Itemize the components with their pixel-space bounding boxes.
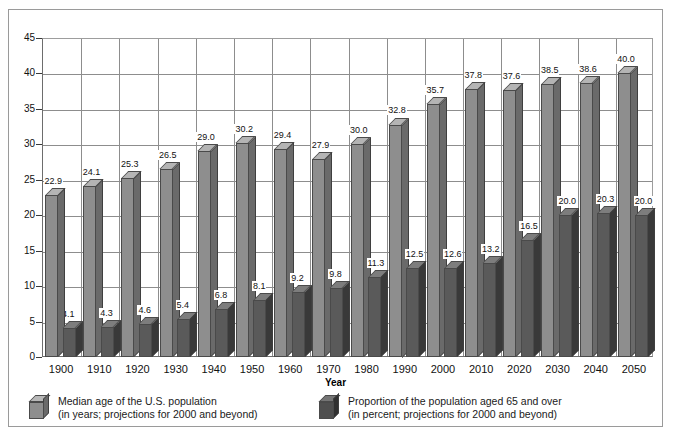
bar-front: [139, 324, 152, 357]
y-tick-mark: [36, 251, 42, 252]
data-label-1900-series1: 22.9: [44, 176, 64, 186]
data-label-1920-series1: 25.3: [120, 159, 140, 169]
legend-swatch-cube-icon: [319, 395, 339, 419]
y-tick-label: 5: [9, 317, 35, 327]
x-gridline: [119, 39, 120, 356]
data-label-1990-series2: 12.5: [405, 249, 425, 259]
legend-label-line1: Median age of the U.S. population: [58, 395, 258, 408]
bar-2040-series2: [597, 213, 610, 357]
bar-front: [101, 327, 114, 357]
legend-label: Median age of the U.S. population(in yea…: [58, 395, 258, 421]
bar-1930-series1: [160, 169, 173, 357]
data-label-2030-series2: 20.0: [557, 196, 577, 206]
y-gridline: [43, 74, 652, 75]
data-label-1950-series2: 8.1: [252, 281, 267, 291]
y-tick-mark: [36, 357, 42, 358]
bar-front: [406, 268, 419, 357]
bar-1980-series1: [351, 144, 364, 357]
data-label-1940-series2: 6.8: [214, 290, 229, 300]
x-tick-label: 2050: [611, 363, 657, 375]
bar-front: [236, 143, 249, 357]
legend-swatch-face: [319, 402, 334, 419]
chart-screenshot: 0510152025303540451900191019201930194019…: [0, 0, 673, 442]
bar-front: [160, 169, 173, 357]
bar-2000-series1: [427, 104, 440, 357]
legend-entry-2[interactable]: Proportion of the population aged 65 and…: [319, 395, 562, 421]
bar-front: [465, 89, 478, 357]
data-label-1990-series1: 32.8: [387, 105, 407, 115]
y-tick-mark: [36, 286, 42, 287]
bar-1950-series2: [253, 300, 266, 357]
bar-front: [503, 90, 516, 357]
y-tick-label: 30: [9, 139, 35, 149]
y-tick-label: 10: [9, 281, 35, 291]
y-tick-label: 35: [9, 104, 35, 114]
bar-1940-series1: [198, 151, 211, 357]
bar-2010-series2: [483, 263, 496, 357]
bar-side-face: [381, 270, 388, 357]
bar-1900-series1: [45, 195, 58, 357]
bar-side-face: [457, 261, 464, 357]
data-label-2050-series1: 40.0: [616, 54, 636, 64]
bar-side-face: [572, 208, 579, 357]
bar-2050-series1: [618, 73, 631, 357]
bar-front: [635, 215, 648, 357]
data-label-2040-series1: 38.6: [578, 64, 598, 74]
bar-side-face: [190, 312, 197, 357]
bar-front: [274, 149, 287, 357]
bar-1970-series2: [330, 288, 343, 357]
data-label-1910-series1: 24.1: [82, 167, 102, 177]
bar-2000-series2: [444, 268, 457, 357]
bar-side-face: [76, 321, 83, 357]
bar-1910-series2: [101, 327, 114, 357]
chart-legend: Median age of the U.S. population(in yea…: [29, 395, 649, 435]
bar-front: [177, 319, 190, 357]
bar-front: [541, 84, 554, 357]
bar-side-face: [648, 208, 655, 357]
bar-side-face: [228, 302, 235, 357]
bar-2050-series2: [635, 215, 648, 357]
y-tick-mark: [36, 180, 42, 181]
data-label-1930-series2: 5.4: [176, 300, 191, 310]
bar-1980-series2: [368, 277, 381, 357]
bar-front: [427, 104, 440, 357]
bar-1940-series2: [215, 309, 228, 357]
bar-front: [521, 240, 534, 357]
bar-front: [389, 125, 402, 358]
y-tick-mark: [36, 144, 42, 145]
data-label-1950-series1: 30.2: [234, 124, 254, 134]
data-label-1970-series1: 27.9: [311, 140, 331, 150]
legend-swatch-face: [29, 402, 44, 419]
bar-side-face: [534, 233, 541, 357]
bar-front: [45, 195, 58, 357]
bar-front: [483, 263, 496, 357]
bar-front: [83, 186, 96, 357]
bar-side-face: [305, 285, 312, 357]
y-tick-label: 40: [9, 68, 35, 78]
bar-1960-series2: [292, 292, 305, 357]
data-label-2030-series1: 38.5: [540, 65, 560, 75]
bar-front: [330, 288, 343, 357]
bar-side-face: [610, 206, 617, 357]
y-tick-label: 20: [9, 210, 35, 220]
data-label-2010-series2: 13.2: [481, 244, 501, 254]
bar-front: [312, 159, 325, 357]
bar-1950-series1: [236, 143, 249, 357]
y-tick-mark: [36, 73, 42, 74]
bar-side-face: [419, 261, 426, 357]
y-tick-mark: [36, 38, 42, 39]
bar-front: [597, 213, 610, 357]
chart-frame: 0510152025303540451900191019201930194019…: [8, 9, 663, 427]
bar-side-face: [343, 281, 350, 357]
bar-front: [444, 268, 457, 357]
bar-front: [618, 73, 631, 357]
bar-2030-series1: [541, 84, 554, 357]
legend-entry-1[interactable]: Median age of the U.S. population(in yea…: [29, 395, 258, 421]
y-tick-label: 45: [9, 33, 35, 43]
legend-label-line1: Proportion of the population aged 65 and…: [348, 395, 562, 408]
bar-front: [198, 151, 211, 357]
bar-side-face: [496, 256, 503, 357]
bar-1920-series1: [121, 178, 134, 357]
data-label-1940-series1: 29.0: [196, 132, 216, 142]
bar-front: [292, 292, 305, 357]
